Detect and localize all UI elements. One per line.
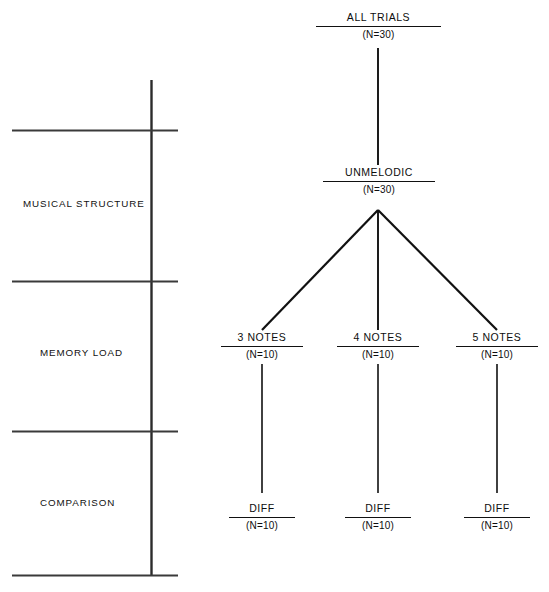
node-diff-3-label: DIFF: [229, 503, 295, 517]
node-4-notes: 4 NOTES (N=10): [337, 332, 419, 360]
stage-label-text: COMPARISON: [40, 497, 115, 508]
node-diff-5-count: (N=10): [464, 518, 530, 531]
node-all-trials-label: ALL TRIALS: [316, 12, 441, 26]
node-all-trials-count: (N=30): [316, 27, 441, 40]
node-diff-5: DIFF (N=10): [464, 503, 530, 531]
stage-label-text: MEMORY LOAD: [40, 347, 123, 358]
edge-unmelodic-to-3-notes: [262, 210, 378, 330]
node-5-notes: 5 NOTES (N=10): [456, 332, 538, 360]
node-5-notes-count: (N=10): [456, 347, 538, 360]
node-unmelodic-label: UNMELODIC: [323, 167, 435, 181]
node-diff-3: DIFF (N=10): [229, 503, 295, 531]
stage-label-text: MUSICAL STRUCTURE: [23, 198, 145, 209]
edge-unmelodic-to-5-notes: [378, 210, 497, 330]
stage-label-comparison: COMPARISON: [40, 497, 115, 508]
node-4-notes-count: (N=10): [337, 347, 419, 360]
figure-root: MUSICAL STRUCTURE MEMORY LOAD COMPARISON…: [0, 0, 549, 592]
node-4-notes-label: 4 NOTES: [337, 332, 419, 346]
node-unmelodic-count: (N=30): [323, 182, 435, 195]
node-diff-4-count: (N=10): [345, 518, 411, 531]
node-unmelodic: UNMELODIC (N=30): [323, 167, 435, 195]
node-all-trials: ALL TRIALS (N=30): [316, 12, 441, 40]
node-diff-4: DIFF (N=10): [345, 503, 411, 531]
stage-label-memory-load: MEMORY LOAD: [40, 347, 123, 358]
node-diff-3-count: (N=10): [229, 518, 295, 531]
stage-label-musical-structure: MUSICAL STRUCTURE: [23, 198, 145, 209]
node-3-notes-count: (N=10): [221, 347, 303, 360]
node-diff-5-label: DIFF: [464, 503, 530, 517]
node-3-notes-label: 3 NOTES: [221, 332, 303, 346]
node-3-notes: 3 NOTES (N=10): [221, 332, 303, 360]
node-5-notes-label: 5 NOTES: [456, 332, 538, 346]
node-diff-4-label: DIFF: [345, 503, 411, 517]
